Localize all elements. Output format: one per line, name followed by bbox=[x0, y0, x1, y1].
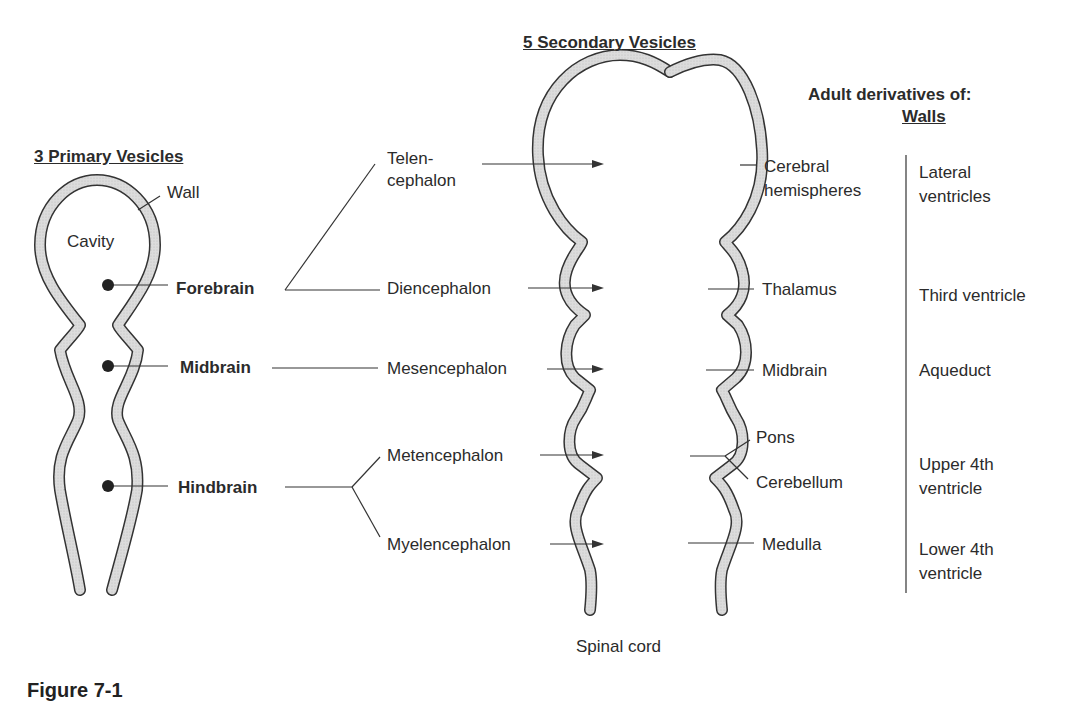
lower-4th-label-1: Lower 4th bbox=[919, 540, 994, 560]
lateral-ventricles-label-1: Lateral bbox=[919, 163, 971, 183]
cavity-label: Cavity bbox=[67, 232, 114, 252]
lateral-ventricles-label-2: ventricles bbox=[919, 187, 991, 207]
midbrain-wall-label: Midbrain bbox=[762, 361, 827, 381]
hindbrain-label: Hindbrain bbox=[178, 478, 257, 498]
wall-label: Wall bbox=[167, 183, 199, 203]
secondary-vesicle-tube bbox=[538, 55, 762, 610]
medulla-label: Medulla bbox=[762, 535, 822, 555]
figure-caption: Figure 7-1 bbox=[27, 679, 123, 702]
upper-4th-label-2: ventricle bbox=[919, 479, 982, 499]
lower-4th-label-2: ventricle bbox=[919, 564, 982, 584]
mesencephalon-label: Mesencephalon bbox=[387, 359, 507, 379]
cerebral-label-2: hemispheres bbox=[764, 181, 861, 201]
thalamus-label: Thalamus bbox=[762, 280, 837, 300]
telencephalon-label-1: Telen- bbox=[387, 149, 433, 169]
cerebellum-label: Cerebellum bbox=[756, 473, 843, 493]
pons-label: Pons bbox=[756, 428, 795, 448]
forebrain-label: Forebrain bbox=[176, 279, 254, 299]
diencephalon-label: Diencephalon bbox=[387, 279, 491, 299]
primary-vesicles-title: 3 Primary Vesicles bbox=[34, 147, 183, 167]
metencephalon-label: Metencephalon bbox=[387, 446, 503, 466]
telencephalon-label-2: cephalon bbox=[387, 171, 456, 191]
adult-derivatives-heading: Adult derivatives of: bbox=[808, 85, 971, 105]
spinal-cord-label: Spinal cord bbox=[576, 637, 661, 657]
cerebral-label-1: Cerebral bbox=[764, 157, 829, 177]
primary-dots bbox=[102, 279, 114, 492]
midbrain-label: Midbrain bbox=[180, 358, 251, 378]
secondary-vesicles-title: 5 Secondary Vesicles bbox=[523, 33, 696, 53]
upper-4th-label-1: Upper 4th bbox=[919, 455, 994, 475]
myelencephalon-label: Myelencephalon bbox=[387, 535, 511, 555]
third-ventricle-label: Third ventricle bbox=[919, 286, 1026, 306]
aqueduct-label: Aqueduct bbox=[919, 361, 991, 381]
walls-heading: Walls bbox=[902, 107, 946, 127]
